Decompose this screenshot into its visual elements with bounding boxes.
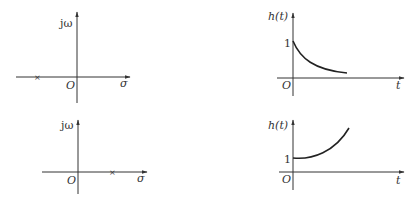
jw-axis-label: jω (58, 17, 72, 30)
s-plane-left-pole-panel: jω σ O × (16, 12, 130, 103)
origin-label: O (66, 79, 75, 92)
initial-value-label: 1 (284, 37, 291, 50)
origin-label: O (282, 173, 291, 186)
growing-curve (293, 128, 349, 158)
h-axis-label: h(t) (268, 10, 288, 23)
response-growing-panel: h(t) 1 O t (268, 119, 404, 190)
h-axis-label: h(t) (268, 119, 288, 132)
sigma-axis-label: σ (137, 172, 145, 185)
pole-marker-icon: × (34, 73, 41, 82)
t-axis-label: t (396, 174, 401, 187)
origin-label: O (282, 79, 291, 92)
initial-value-label: 1 (284, 153, 291, 166)
jw-axis-label: jω (59, 119, 73, 132)
origin-label: O (67, 174, 76, 187)
decaying-curve (293, 41, 347, 73)
t-axis-label: t (396, 79, 401, 92)
response-decaying-panel: h(t) 1 O t (268, 10, 404, 96)
sigma-axis-label: σ (120, 77, 128, 90)
pole-response-diagram: jω σ O × h(t) 1 O t jω σ O × h(t) 1 O t (0, 0, 418, 203)
pole-marker-icon: × (109, 168, 116, 177)
s-plane-right-pole-panel: jω σ O × (42, 119, 147, 194)
